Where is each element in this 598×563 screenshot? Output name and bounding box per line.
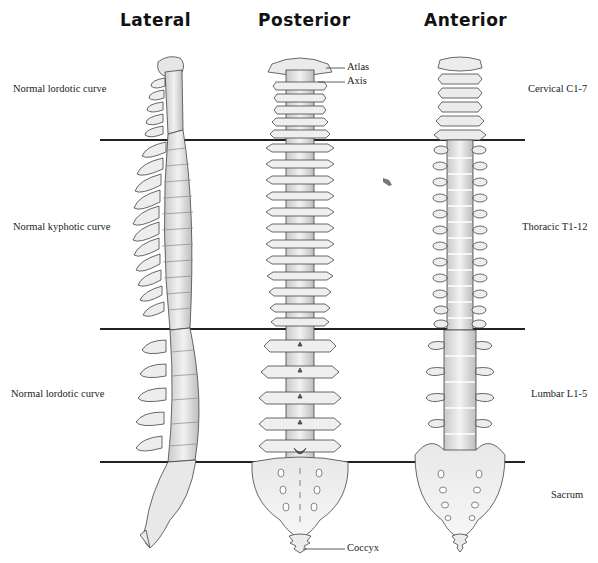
- callout-axis: Axis: [347, 75, 367, 86]
- label-lumbar-curve: Normal lordotic curve: [11, 388, 104, 399]
- label-cervical-curve: Normal lordotic curve: [13, 83, 106, 94]
- label-lumbar: Lumbar L1-5: [531, 388, 587, 399]
- posterior-spine: [252, 58, 348, 553]
- label-thoracic-curve: Normal kyphotic curve: [13, 221, 110, 232]
- anterior-spine: [415, 57, 505, 552]
- label-thoracic: Thoracic T1-12: [522, 221, 587, 232]
- callout-coccyx: Coccyx: [347, 542, 379, 553]
- stray-mark: [383, 178, 392, 186]
- label-sacrum: Sacrum: [551, 489, 583, 500]
- lateral-spine: [133, 57, 199, 548]
- callout-atlas: Atlas: [347, 61, 369, 72]
- label-cervical: Cervical C1-7: [528, 83, 587, 94]
